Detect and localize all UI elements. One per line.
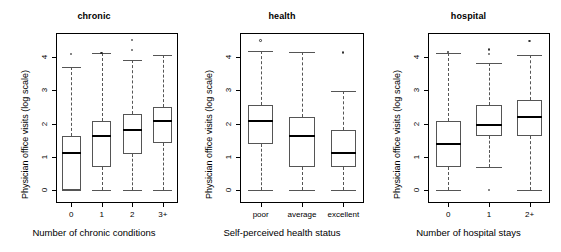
box-median <box>153 120 172 122</box>
y-tick-label: 0 <box>412 185 422 195</box>
whisker-upper <box>261 51 262 105</box>
y-tick-mark <box>424 124 428 125</box>
y-tick-label-wrap: 4 <box>224 52 234 62</box>
outlier-point <box>488 189 491 192</box>
panel-title: hospital <box>376 11 561 21</box>
y-tick-mark <box>236 157 240 158</box>
whisker-cap-upper <box>153 55 172 56</box>
whisker-upper <box>102 53 103 120</box>
x-tick-mark <box>302 203 303 207</box>
outlier-point <box>259 39 262 42</box>
y-tick-mark <box>424 157 428 158</box>
whisker-cap-upper <box>517 55 542 56</box>
whisker-cap-upper <box>476 63 501 64</box>
whisker-lower <box>489 136 490 167</box>
y-tick-label-wrap: 4 <box>412 52 422 62</box>
whisker-cap-upper <box>62 67 81 68</box>
x-axis-label: Number of hospital stays <box>376 227 561 238</box>
panel-hospital: hospitalPhysician office visits (log sca… <box>376 0 561 252</box>
box-median <box>331 152 357 154</box>
x-tick-mark <box>102 203 103 207</box>
whisker-cap-upper <box>123 60 142 61</box>
x-tick-mark <box>132 203 133 207</box>
whisker-cap-lower <box>517 190 542 191</box>
box-median <box>476 124 501 126</box>
y-tick-label: 2 <box>224 119 234 129</box>
whisker-upper <box>489 63 490 105</box>
x-tick-label: 3+ <box>133 210 193 219</box>
y-tick-label-wrap: 3 <box>224 85 234 95</box>
whisker-upper <box>343 91 344 130</box>
x-tick-mark <box>489 203 490 207</box>
whisker-cap-lower <box>62 190 81 191</box>
whisker-cap-lower <box>331 190 357 191</box>
y-tick-label: 1 <box>224 152 234 162</box>
whisker-lower <box>302 167 303 190</box>
y-tick-mark <box>52 57 56 58</box>
whisker-lower <box>102 167 103 190</box>
y-tick-label-wrap: 3 <box>40 85 50 95</box>
box-median <box>123 129 142 131</box>
whisker-cap-lower <box>153 190 172 191</box>
box-iqr <box>476 105 501 137</box>
whisker-upper <box>530 55 531 100</box>
whisker-cap-lower <box>92 190 111 191</box>
box-iqr <box>248 105 274 144</box>
whisker-upper <box>71 67 72 136</box>
whisker-cap-upper <box>331 91 357 92</box>
box-median <box>436 143 461 145</box>
y-tick-label: 4 <box>412 52 422 62</box>
outlier-point <box>100 52 103 55</box>
outlier-point <box>528 40 531 43</box>
y-tick-label: 3 <box>412 85 422 95</box>
boxplot-figure: chronicPhysician office visits (log scal… <box>0 0 561 252</box>
whisker-lower <box>163 143 164 190</box>
whisker-cap-lower <box>436 190 461 191</box>
outlier-point <box>488 48 491 51</box>
y-tick-mark <box>424 57 428 58</box>
y-tick-mark <box>424 90 428 91</box>
y-tick-label: 1 <box>412 152 422 162</box>
y-tick-label: 2 <box>412 119 422 129</box>
y-tick-label: 4 <box>40 52 50 62</box>
y-tick-label-wrap: 0 <box>40 185 50 195</box>
box-iqr <box>517 100 542 137</box>
whisker-lower <box>261 144 262 190</box>
x-tick-mark <box>448 203 449 207</box>
y-tick-label-wrap: 0 <box>412 185 422 195</box>
x-axis-label: Self-perceived health status <box>188 227 376 238</box>
whisker-cap-lower <box>123 190 142 191</box>
whisker-lower <box>448 167 449 190</box>
y-tick-mark <box>236 190 240 191</box>
x-tick-label: 2+ <box>500 210 560 219</box>
x-tick-mark <box>261 203 262 207</box>
whisker-cap-upper <box>248 51 274 52</box>
y-tick-mark <box>52 124 56 125</box>
panel-chronic: chronicPhysician office visits (log scal… <box>0 0 188 252</box>
y-tick-label-wrap: 0 <box>224 185 234 195</box>
whisker-cap-lower <box>476 167 501 168</box>
whisker-upper <box>132 60 133 114</box>
y-tick-label-wrap: 4 <box>40 52 50 62</box>
whisker-lower <box>132 154 133 190</box>
y-tick-label-wrap: 2 <box>412 119 422 129</box>
y-tick-label-wrap: 3 <box>412 85 422 95</box>
y-tick-mark <box>236 124 240 125</box>
y-tick-label-wrap: 2 <box>224 119 234 129</box>
x-tick-mark <box>343 203 344 207</box>
panel-title: chronic <box>0 11 188 21</box>
box-iqr <box>123 114 142 155</box>
x-tick-mark <box>530 203 531 207</box>
y-axis-label: Physician office visits (log scale) <box>392 70 402 199</box>
x-tick-mark <box>71 203 72 207</box>
box-iqr <box>289 117 315 167</box>
whisker-lower <box>530 136 531 190</box>
panel-title: health <box>188 11 376 21</box>
y-tick-label: 0 <box>40 185 50 195</box>
box-iqr <box>62 136 81 190</box>
y-tick-label-wrap: 1 <box>412 152 422 162</box>
x-tick-label: excellent <box>313 210 373 219</box>
box-median <box>248 120 274 122</box>
y-tick-label-wrap: 1 <box>40 152 50 162</box>
y-tick-label-wrap: 2 <box>40 119 50 129</box>
